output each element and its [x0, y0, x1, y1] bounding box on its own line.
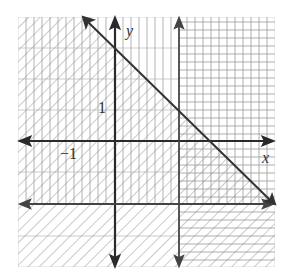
x-tick-label: −1	[60, 145, 77, 163]
y-axis-label: y	[126, 22, 133, 40]
x-axis-label: x	[262, 149, 269, 167]
y-tick-label: 1	[98, 99, 106, 117]
inequality-graph	[0, 0, 281, 276]
shading-layer	[0, 0, 281, 276]
